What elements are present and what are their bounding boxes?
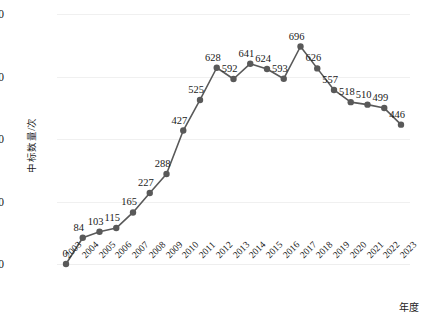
data-point-marker (264, 66, 270, 72)
data-point-label: 624 (255, 53, 271, 64)
data-point-label: 103 (88, 216, 104, 227)
y-axis-tick-label: 200 (0, 196, 4, 208)
data-point-marker (180, 127, 186, 133)
data-point-marker (247, 60, 253, 66)
data-point-marker (96, 229, 102, 235)
data-point-marker (398, 121, 404, 127)
data-point-label: 592 (222, 63, 238, 74)
data-point-label: 525 (188, 84, 204, 95)
data-point-marker (281, 75, 287, 81)
data-point-label: 510 (356, 89, 372, 100)
data-point-marker (297, 43, 303, 49)
data-point-label: 628 (205, 52, 221, 63)
line-chart: 中标数量/次 0200400600800 0841031151652272884… (0, 0, 425, 320)
data-point-label: 518 (339, 86, 355, 97)
data-point-label: 696 (289, 31, 305, 42)
data-point-label: 84 (74, 222, 85, 233)
data-point-label: 165 (121, 196, 137, 207)
data-point-label: 427 (171, 115, 187, 126)
data-point-label: 626 (305, 52, 321, 63)
gridline (57, 264, 410, 265)
series-line (57, 14, 410, 264)
data-point-marker (230, 76, 236, 82)
data-point-marker (63, 261, 69, 267)
y-axis-tick-label: 0 (0, 258, 4, 270)
x-axis-title: 年度 (399, 299, 419, 314)
data-point-marker (113, 225, 119, 231)
data-point-label: 593 (272, 63, 288, 74)
data-point-marker (163, 171, 169, 177)
y-axis-title: 中标数量/次 (4, 90, 18, 200)
data-point-label: 499 (372, 92, 388, 103)
data-point-marker (130, 209, 136, 215)
data-point-marker (348, 99, 354, 105)
data-point-marker (364, 101, 370, 107)
data-point-marker (381, 105, 387, 111)
y-axis-tick-label: 600 (0, 71, 4, 83)
plot-area: 0841031151652272884275256285926416245936… (57, 14, 410, 264)
data-point-marker (214, 65, 220, 71)
data-point-marker (147, 190, 153, 196)
y-axis-tick-label: 400 (0, 133, 4, 145)
y-axis-title-text: 中标数量/次 (24, 117, 38, 173)
data-point-label: 115 (105, 212, 120, 223)
data-point-label: 288 (155, 158, 171, 169)
data-point-label: 446 (389, 109, 405, 120)
y-axis-tick-label: 800 (0, 8, 4, 20)
data-point-marker (331, 87, 337, 93)
data-point-marker (314, 65, 320, 71)
data-point-label: 641 (238, 48, 254, 59)
data-point-marker (197, 97, 203, 103)
data-point-label: 227 (138, 177, 154, 188)
data-point-marker (80, 235, 86, 241)
data-point-label: 557 (322, 74, 338, 85)
